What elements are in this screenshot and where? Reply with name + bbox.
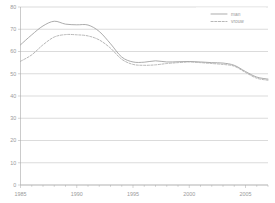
x-axis-tick-labels: 19851990199520002005 [15, 191, 252, 197]
y-tick-label-60: 60 [10, 48, 16, 54]
x-tick-label-2005: 2005 [240, 191, 252, 197]
line-chart: 01020304050607080 19851990199520002005 m… [0, 0, 275, 203]
y-tick-label-40: 40 [10, 93, 16, 99]
legend-background [196, 8, 266, 28]
chart-plot-area: 01020304050607080 19851990199520002005 m… [0, 0, 275, 203]
gridlines-group [21, 7, 269, 185]
legend-label-vrouw: vrouw [231, 19, 244, 24]
series-line-vrouw [21, 34, 269, 80]
x-tick-label-2000: 2000 [183, 191, 195, 197]
y-axis-tick-labels: 01020304050607080 [10, 4, 20, 188]
y-tick-label-10: 10 [10, 160, 16, 166]
legend-label-man: man [231, 12, 241, 17]
y-tick-label-0: 0 [13, 182, 16, 188]
x-tick-marks-group [21, 185, 269, 188]
y-tick-label-50: 50 [10, 71, 16, 77]
data-series-group [21, 21, 269, 80]
y-tick-label-70: 70 [10, 26, 16, 32]
x-tick-label-1995: 1995 [127, 191, 139, 197]
series-line-man [21, 21, 269, 79]
x-tick-label-1990: 1990 [71, 191, 83, 197]
x-tick-label-1985: 1985 [15, 191, 27, 197]
chart-legend: manvrouw [196, 8, 266, 28]
y-tick-label-30: 30 [10, 115, 16, 121]
y-tick-label-80: 80 [10, 4, 16, 10]
y-tick-label-20: 20 [10, 137, 16, 143]
